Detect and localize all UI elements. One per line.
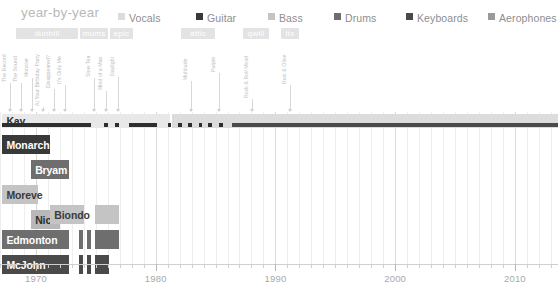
axis-tick-minor bbox=[323, 264, 324, 268]
legend-label: Guitar bbox=[207, 12, 236, 24]
axis-tick-label: 1990 bbox=[264, 273, 286, 284]
axis-tick-minor bbox=[539, 264, 540, 268]
album-leader-line bbox=[21, 83, 22, 109]
bar-overlay-segment[interactable] bbox=[232, 123, 558, 127]
album-title: Purple bbox=[210, 57, 216, 72]
axis-tick-minor bbox=[12, 264, 13, 268]
axis-tick-minor bbox=[371, 264, 372, 268]
album-leader-line bbox=[106, 91, 107, 109]
legend-item-drums[interactable]: Drums bbox=[334, 8, 376, 20]
member-row-monarch[interactable]: Monarch bbox=[0, 135, 558, 154]
album-title: Monster bbox=[23, 58, 29, 77]
legend-swatch-icon bbox=[268, 13, 275, 20]
legend-swatch-icon bbox=[488, 13, 495, 20]
album-title: The Record bbox=[1, 54, 7, 82]
legend-label: Bass bbox=[279, 12, 303, 24]
axis-tick-minor bbox=[251, 264, 252, 268]
axis-tick-minor bbox=[216, 264, 217, 268]
album-leader-line bbox=[191, 81, 192, 109]
bar-segment-drums[interactable] bbox=[79, 230, 83, 249]
album-title: Rust & Olive bbox=[281, 55, 287, 84]
record-label-dunhill[interactable]: dunhill bbox=[16, 28, 78, 39]
axis-tick-major bbox=[275, 264, 276, 271]
album-leader-line bbox=[32, 78, 33, 109]
record-label-qwill[interactable]: qwill bbox=[243, 28, 269, 39]
axis-tick-label: 1980 bbox=[145, 273, 167, 284]
axis-tick-minor bbox=[503, 264, 504, 268]
record-label-attic[interactable]: attic bbox=[181, 28, 215, 39]
bar-overlay-segment[interactable] bbox=[188, 123, 192, 127]
album-leader-line bbox=[118, 77, 119, 109]
axis-tick-label: 1970 bbox=[25, 273, 47, 284]
axis-tick-minor bbox=[263, 264, 264, 268]
axis-tick-minor bbox=[383, 264, 384, 268]
record-label-epic[interactable]: epic bbox=[110, 28, 133, 39]
album-annotation[interactable]: It's Only Me bbox=[64, 44, 74, 112]
album-annotation[interactable]: Multitude bbox=[190, 44, 200, 112]
album-leader-line bbox=[252, 99, 253, 109]
album-title: Daylight bbox=[109, 57, 115, 76]
bar-overlay-segment[interactable] bbox=[104, 123, 108, 127]
album-title: It's Only Me bbox=[56, 56, 62, 84]
bar-segment-drums[interactable] bbox=[87, 230, 91, 249]
axis-tick-minor bbox=[467, 264, 468, 268]
axis-tick-minor bbox=[204, 264, 205, 268]
chart-header: year-by-year VocalsGuitarBassDrumsKeyboa… bbox=[0, 0, 558, 24]
member-row-edmonton[interactable]: Edmonton bbox=[0, 230, 558, 249]
member-name-label: Moreve bbox=[6, 189, 42, 201]
axis-tick-minor bbox=[132, 264, 133, 268]
member-name-label: Kay bbox=[6, 115, 25, 127]
member-row-bryam[interactable]: Bryam bbox=[0, 160, 558, 179]
legend-label: Keyboards bbox=[417, 12, 468, 24]
axis-tick-minor bbox=[48, 264, 49, 268]
legend-item-vocals[interactable]: Vocals bbox=[118, 8, 161, 20]
axis-tick-minor bbox=[479, 264, 480, 268]
album-annotation[interactable]: The Sound bbox=[20, 44, 30, 112]
album-annotation[interactable]: Rust & Olive bbox=[289, 44, 299, 112]
axis-tick-minor bbox=[419, 264, 420, 268]
axis-tick-minor bbox=[180, 264, 181, 268]
album-annotation[interactable]: Purple bbox=[218, 44, 228, 112]
member-row-moreve[interactable]: Moreve bbox=[0, 185, 558, 204]
bar-overlay-segment[interactable] bbox=[178, 123, 182, 127]
x-axis: 19701980199020002010 bbox=[0, 264, 558, 290]
axis-tick-minor bbox=[335, 264, 336, 268]
legend-swatch-icon bbox=[118, 13, 125, 20]
axis-tick-minor bbox=[72, 264, 73, 268]
legend-swatch-icon bbox=[334, 13, 341, 20]
album-annotation[interactable]: Rock & Roll Motel bbox=[251, 44, 261, 112]
axis-tick-minor bbox=[311, 264, 312, 268]
axis-tick-minor bbox=[287, 264, 288, 268]
axis-tick-minor bbox=[407, 264, 408, 268]
album-annotation[interactable]: Mind of a Man bbox=[105, 44, 115, 112]
axis-tick-major bbox=[395, 264, 396, 271]
member-row-kay[interactable]: Kay bbox=[0, 114, 558, 128]
album-title: Rock & Roll Motel bbox=[243, 56, 249, 98]
bar-overlay-segment[interactable] bbox=[168, 123, 172, 127]
record-label-ltx[interactable]: ltx bbox=[281, 28, 299, 39]
bar-segment-bass[interactable] bbox=[95, 205, 119, 224]
bar-overlay-segment[interactable] bbox=[129, 123, 157, 127]
legend-item-guitar[interactable]: Guitar bbox=[196, 8, 236, 20]
bar-overlay-segment[interactable] bbox=[115, 123, 119, 127]
axis-tick-minor bbox=[60, 264, 61, 268]
bar-segment-drums[interactable] bbox=[95, 230, 119, 249]
legend-label: Aerophones bbox=[499, 12, 557, 24]
axis-tick-minor bbox=[443, 264, 444, 268]
legend-item-bass[interactable]: Bass bbox=[268, 8, 303, 20]
axis-tick-minor bbox=[299, 264, 300, 268]
member-row-biondo[interactable]: Biondo bbox=[0, 205, 558, 224]
legend-item-aerophones[interactable]: Aerophones bbox=[488, 8, 557, 20]
album-title: Disappeared? bbox=[45, 55, 51, 88]
record-label-mums[interactable]: mums bbox=[80, 28, 108, 39]
axis-tick-minor bbox=[96, 264, 97, 268]
album-annotation[interactable]: Daylight bbox=[117, 44, 127, 112]
legend-swatch-icon bbox=[196, 13, 203, 20]
bar-overlay-segment[interactable] bbox=[219, 123, 223, 127]
axis-tick-minor bbox=[491, 264, 492, 268]
bar-overlay-segment[interactable] bbox=[199, 123, 203, 127]
bar-overlay-segment[interactable] bbox=[208, 123, 212, 127]
album-leader-line bbox=[94, 78, 95, 109]
legend-item-keyboards[interactable]: Keyboards bbox=[406, 8, 468, 20]
axis-tick-major bbox=[36, 264, 37, 271]
